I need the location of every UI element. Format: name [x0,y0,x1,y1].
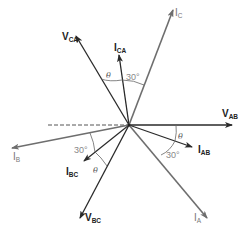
label-i-c: IC [175,7,183,19]
origin-point [128,124,131,127]
angle-label-30-bc: 30° [74,145,88,155]
label-i-bc: IBC [66,166,78,178]
phasor-v-bc [80,125,129,218]
angle-arc-30-bc [90,133,95,152]
phasor-i-bc [84,125,129,161]
angle-label-theta-ca: θ [106,71,111,80]
label-i-a: IA [194,212,202,224]
angle-arc-theta-bc [95,152,107,166]
angle-label-theta-bc: θ [93,166,98,175]
angle-arc-theta-ab [175,125,176,141]
angle-label-30-ab: 30° [166,150,180,160]
angle-arc-theta-ca [101,79,122,81]
label-v-ab: VAB [222,108,238,120]
angle-label-theta-ab: θ [178,132,183,141]
phasor-i-b [12,125,129,148]
label-v-bc: VBC [85,212,101,224]
label-i-b: IB [13,151,20,163]
phasor-diagram: θ 30° θ 30° 30° θ VAB VBC VCA IAB IBC IC… [0,0,249,225]
label-v-ca: VCA [62,31,78,43]
angle-label-30-ca: 30° [126,72,140,82]
label-i-ca: ICA [114,42,126,54]
phasor-i-ca [119,55,129,125]
label-i-ab: IAB [198,144,210,156]
phasor-i-c [129,10,173,125]
